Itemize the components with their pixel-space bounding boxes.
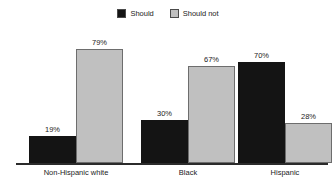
bar-value-should-not-hispanic: 28%	[301, 113, 316, 121]
bar-slot-should-non-hispanic-white: 19%	[29, 33, 76, 163]
category-label-black: Black	[141, 169, 235, 177]
bar-slot-should-hispanic: 70%	[238, 33, 285, 163]
bar-group-black: 30% 67%	[141, 33, 235, 163]
bar-value-should-not-black: 67%	[204, 56, 219, 64]
bar-slot-should-black: 30%	[141, 33, 188, 163]
bar-should-not-non-hispanic-white	[76, 49, 123, 163]
category-label-non-hispanic-white: Non-Hispanic white	[29, 169, 123, 177]
bar-value-should-not-non-hispanic-white: 79%	[92, 39, 107, 47]
bar-chart: Should Should not 19% 79% 30%	[0, 0, 336, 196]
bar-slot-should-not-hispanic: 28%	[285, 33, 332, 163]
bar-value-should-non-hispanic-white: 19%	[45, 126, 60, 134]
bar-value-should-hispanic: 70%	[254, 52, 269, 60]
plot-area: 19% 79% 30% 67% 70%	[0, 0, 336, 196]
bar-group-non-hispanic-white: 19% 79%	[29, 33, 123, 163]
bar-should-hispanic	[238, 62, 285, 163]
bar-should-not-black	[188, 66, 235, 163]
bar-slot-should-not-non-hispanic-white: 79%	[76, 33, 123, 163]
bar-should-non-hispanic-white	[29, 136, 76, 163]
bar-group-hispanic: 70% 28%	[238, 33, 332, 163]
bar-should-black	[141, 120, 188, 163]
category-label-hispanic: Hispanic	[238, 169, 332, 177]
category-axis-line	[16, 163, 328, 165]
bar-should-not-hispanic	[285, 123, 332, 163]
bar-value-should-black: 30%	[157, 110, 172, 118]
bar-slot-should-not-black: 67%	[188, 33, 235, 163]
